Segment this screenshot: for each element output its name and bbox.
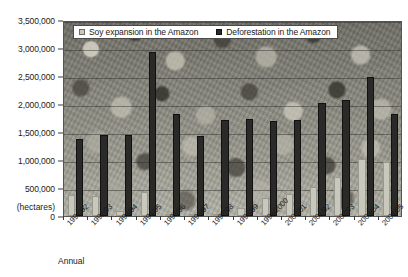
bar-deforestation <box>342 100 349 216</box>
bar-soy-expansion <box>358 159 365 216</box>
x-axis-tick-mark <box>111 216 112 220</box>
bar-deforestation <box>149 52 156 216</box>
bar-group <box>64 22 88 216</box>
chart-legend: Soy expansion in the Amazon Deforestatio… <box>73 25 338 39</box>
x-axis-tick-mark <box>160 216 161 220</box>
x-axis-tick-mark <box>87 216 88 220</box>
x-axis-tick-mark <box>233 216 234 220</box>
bar-group <box>379 22 402 216</box>
y-axis-tick-label: 3,500,000 <box>18 16 55 26</box>
bar-group <box>282 22 306 216</box>
x-axis-tick-mark <box>208 216 209 220</box>
y-axis-tick-label: 1,500,000 <box>18 128 55 138</box>
legend-swatch-deforestation-icon <box>216 29 222 35</box>
x-axis-tick-mark <box>184 216 185 220</box>
legend-item-deforestation: Deforestation in the Amazon <box>216 27 330 37</box>
legend-label-deforestation: Deforestation in the Amazon <box>226 27 330 37</box>
y-axis-tick-label: 3,000,000 <box>18 44 55 54</box>
y-axis-tick-label: 2,500,000 <box>18 72 55 82</box>
bar-deforestation <box>318 103 325 216</box>
bars-layer <box>64 22 401 216</box>
legend-item-soy-expansion: Soy expansion in the Amazon <box>79 27 198 37</box>
y-axis-tick-label: 0 <box>50 212 55 222</box>
x-axis: 1991/921992/931993/941994/951995/961996/… <box>63 218 402 260</box>
y-axis-unit-label: (hectares) <box>17 202 55 212</box>
x-axis-tick-mark <box>305 216 306 220</box>
y-axis-tick-label: 2,000,000 <box>18 100 55 110</box>
bar-deforestation <box>270 121 277 216</box>
plot-area <box>63 21 402 217</box>
bar-group <box>112 22 136 216</box>
legend-label-soy: Soy expansion in the Amazon <box>89 27 198 37</box>
bar-group <box>306 22 330 216</box>
legend-swatch-soy-icon <box>79 29 85 35</box>
y-axis-tick-label: 1,000,000 <box>18 156 55 166</box>
bar-deforestation <box>391 114 398 216</box>
bar-group <box>330 22 354 216</box>
bar-deforestation <box>173 114 180 216</box>
bar-group <box>258 22 282 216</box>
x-axis-title: Annual <box>58 256 84 266</box>
bar-deforestation <box>246 119 253 216</box>
x-axis-tick-mark <box>281 216 282 220</box>
x-axis-tick-mark <box>63 216 64 220</box>
bar-group <box>234 22 258 216</box>
bar-group <box>88 22 112 216</box>
bar-group <box>185 22 209 216</box>
bar-group <box>137 22 161 216</box>
bar-group <box>161 22 185 216</box>
y-axis-tick-label: 500,000 <box>25 184 55 194</box>
soy-deforestation-bar-chart: 0500,0001,000,0001,500,0002,000,0002,500… <box>0 0 408 277</box>
x-axis-tick-mark <box>354 216 355 220</box>
bar-soy-expansion <box>383 162 390 216</box>
x-axis-tick-mark <box>329 216 330 220</box>
x-axis-tick-mark <box>136 216 137 220</box>
bar-deforestation <box>367 77 374 216</box>
y-axis: 0500,0001,000,0001,500,0002,000,0002,500… <box>0 0 63 240</box>
bar-group <box>355 22 379 216</box>
x-axis-tick-mark <box>378 216 379 220</box>
bar-deforestation <box>294 120 301 216</box>
bar-group <box>209 22 233 216</box>
x-axis-tick-mark <box>257 216 258 220</box>
